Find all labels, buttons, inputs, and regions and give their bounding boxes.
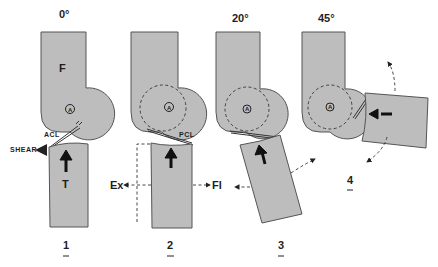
center-marker-label-3: A <box>245 106 250 112</box>
knee-biomechanics-diagram: 0° F A ACL T SHEAR 1 A PCL Ex <box>0 0 438 267</box>
pcl-label: PCL <box>179 131 195 138</box>
femur-3 <box>216 32 288 139</box>
angle-label-1: 0° <box>59 8 70 20</box>
shear-label: SHEAR <box>10 146 37 153</box>
acl-label: ACL <box>44 131 60 138</box>
panel-4: 45° A 4 <box>291 12 428 190</box>
center-marker-label-4: A <box>328 104 333 110</box>
panel-2: A PCL Ex Fl 2 <box>110 32 222 256</box>
extension-label: Ex <box>110 179 124 191</box>
panel-3: 20° A 3 <box>216 12 302 256</box>
panel-number-1: 1 <box>63 239 69 251</box>
panel-1: 0° F A ACL T SHEAR 1 <box>10 8 115 256</box>
tibia-label: T <box>62 178 69 190</box>
tibia-3 <box>240 135 302 223</box>
angle-label-3: 20° <box>232 12 249 24</box>
panel-number-4: 4 <box>347 174 354 186</box>
center-marker-label-1: A <box>68 107 73 113</box>
femur-1 <box>41 32 115 140</box>
femur-label: F <box>59 62 66 74</box>
rotation-arrow-left-icon <box>291 159 315 173</box>
panel-number-2: 2 <box>167 239 173 251</box>
femur-2 <box>131 32 207 140</box>
displaced-tibia-outline <box>137 144 151 222</box>
center-marker-label-2: A <box>167 105 172 111</box>
flexion-label: Fl <box>212 179 222 191</box>
panel-number-3: 3 <box>278 239 284 251</box>
rotation-arrow-up-icon <box>388 62 395 91</box>
angle-label-4: 45° <box>318 12 335 24</box>
femur-4 <box>302 32 372 139</box>
tibia-4 <box>362 93 428 148</box>
